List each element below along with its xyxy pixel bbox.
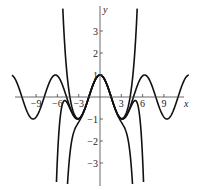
y-tick-label: 3: [93, 26, 98, 37]
x-tick-label: −6: [52, 98, 63, 109]
x-tick-label: 9: [161, 98, 166, 109]
x-tick-label: 3: [119, 98, 124, 109]
y-axis-label: y: [102, 4, 108, 15]
x-tick-label: −9: [31, 98, 42, 109]
x-axis-label: x: [183, 98, 189, 109]
y-tick-label: 2: [93, 48, 98, 59]
y-tick-label: −2: [87, 136, 98, 147]
y-tick-label: −3: [87, 158, 98, 169]
y-tick-label: −1: [87, 114, 98, 125]
y-tick-label: 1: [93, 70, 98, 81]
x-tick-label: 6: [140, 98, 145, 109]
chart: −9−6−3369321−1−2−3 x y: [0, 0, 202, 190]
x-tick-label: −3: [73, 98, 84, 109]
